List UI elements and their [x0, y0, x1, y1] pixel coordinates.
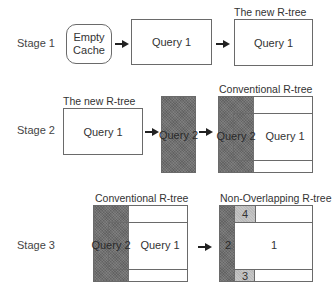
stage-2-query-2-box: Query 2 — [161, 96, 196, 173]
stage-1-label: Stage 1 — [17, 37, 55, 49]
region-3-label: 3 — [242, 270, 248, 282]
arrow-icon — [145, 131, 157, 133]
arrow-icon — [198, 246, 210, 248]
arrow-icon — [216, 43, 228, 45]
stage-2-conventional-rtree: Query 2 Query 1 — [218, 96, 313, 173]
empty-cache-box: Empty Cache — [66, 24, 112, 64]
non-overlapping-rtree-caption: Non-Overlapping R-tree — [220, 192, 331, 204]
stage-1-new-rtree-box: Query 1 — [234, 19, 313, 66]
new-rtree-caption: The new R-tree — [234, 6, 306, 18]
empty-cache-text: Empty Cache — [72, 31, 106, 57]
query-2-label: Query 2 — [159, 129, 198, 141]
new-rtree-caption: The new R-tree — [63, 95, 135, 107]
query-1-label: Query 1 — [83, 126, 122, 138]
region-1-label: 1 — [271, 239, 277, 251]
stage-2-new-rtree-box: Query 1 — [63, 108, 143, 155]
arrow-icon — [199, 131, 211, 133]
region-4-label: 4 — [242, 208, 248, 220]
divider — [254, 113, 313, 114]
query-1-label: Query 1 — [254, 37, 293, 49]
divider — [235, 222, 312, 223]
query-1-label: Query 1 — [152, 36, 191, 48]
stage-1-query-1-box: Query 1 — [131, 19, 212, 65]
region-2-label: 2 — [225, 239, 231, 251]
conventional-rtree-caption: Conventional R-tree — [95, 192, 188, 204]
arrow-icon — [115, 43, 127, 45]
query-1-label: Query 1 — [265, 130, 304, 142]
stage-3-non-overlapping-rtree: 2 4 3 1 — [219, 205, 313, 282]
stage-3-label: Stage 3 — [17, 239, 55, 251]
query-2-label: Query 2 — [216, 130, 255, 142]
conventional-rtree-caption: Conventional R-tree — [219, 83, 312, 95]
query-2-label: Query 2 — [91, 239, 130, 251]
query-1-label: Query 1 — [140, 239, 179, 251]
stage-2-label: Stage 2 — [17, 124, 55, 136]
stage-3-conventional-rtree: Query 2 Query 1 — [93, 205, 188, 282]
